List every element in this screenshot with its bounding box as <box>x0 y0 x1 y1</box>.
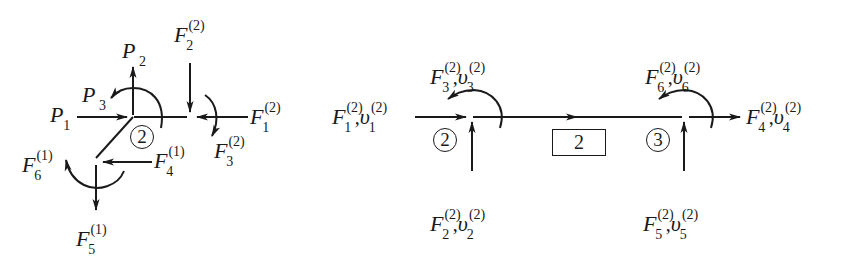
label-p1: P()1 <box>50 104 74 126</box>
label-p2: P2 <box>122 40 149 62</box>
node-3-circle-label: 3 <box>646 128 670 152</box>
label-end5: F(2)5,υ(2)5 <box>643 213 690 235</box>
node-2-circle-label: 2 <box>433 128 457 152</box>
label-end1: F(2)1,υ(2)1 <box>332 106 379 128</box>
label-f3-2: F(2)3 <box>214 140 237 162</box>
p3-moment-arc <box>111 88 162 128</box>
label-f1-2: F(2)1 <box>250 106 273 128</box>
end3-moment-arc <box>448 90 502 128</box>
f3-2-moment-arc <box>205 95 216 136</box>
label-f2-2: F(2)2 <box>174 24 197 46</box>
label-end2: F(2)2,υ(2)2 <box>430 213 477 235</box>
label-f6-1: F(1)6 <box>22 154 45 176</box>
label-end4: F(2)4,υ(2)4 <box>746 106 793 128</box>
end6-moment-arc <box>659 90 713 128</box>
element-1-member <box>96 117 133 158</box>
label-f5-1: F(1)5 <box>76 228 99 250</box>
label-p3: P3 <box>82 84 109 106</box>
label-end3: F(2)3,υ(2)3 <box>430 66 477 88</box>
element-2-box-label: 2 <box>552 129 606 156</box>
element-2-circle-label: 2 <box>130 125 154 149</box>
label-end6: F(2)6,υ(2)6 <box>645 66 692 88</box>
label-f4-1: F(1)4 <box>154 150 177 172</box>
